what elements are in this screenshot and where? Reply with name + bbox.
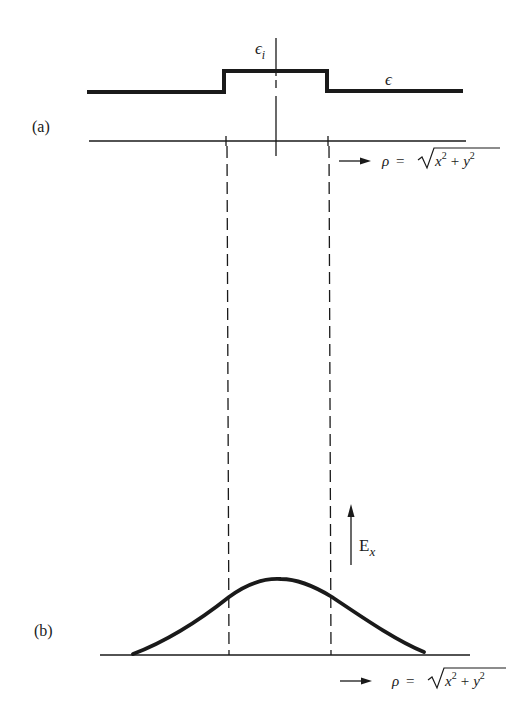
axis-arrow-head-icon	[360, 158, 371, 165]
core-boundary-dashed-right	[329, 146, 331, 655]
cladding-permittivity-label: ϵ	[385, 70, 393, 89]
rho-formula-text-a: ρ =	[381, 153, 404, 169]
rho-formula-a: ρ = x2+y2	[339, 148, 500, 169]
field-arrow-head-icon	[348, 504, 355, 517]
panel-a-label: (a)	[32, 118, 50, 136]
panel-a: (a) ϵi ϵ ρ = x2+y2	[32, 38, 500, 169]
waveguide-diagram: (a) ϵi ϵ ρ = x2+y2 Ex	[0, 0, 532, 723]
field-label: Ex	[359, 536, 375, 559]
panel-b: Ex (b) ρ = x2+y2	[34, 504, 506, 689]
core-boundary-dashed-left	[227, 146, 229, 655]
radicand-b: x2+y2	[444, 670, 485, 689]
permittivity-profile	[87, 71, 463, 92]
core-permittivity-label: ϵi	[255, 39, 265, 62]
panel-b-label: (b)	[34, 622, 53, 640]
rho-formula-b: ρ = x2+y2	[340, 668, 506, 689]
field-profile-curve	[133, 579, 424, 654]
radicand-a: x2+y2	[434, 150, 475, 169]
axis-arrow-head-icon	[361, 678, 372, 685]
rho-formula-text-b: ρ =	[391, 673, 414, 689]
